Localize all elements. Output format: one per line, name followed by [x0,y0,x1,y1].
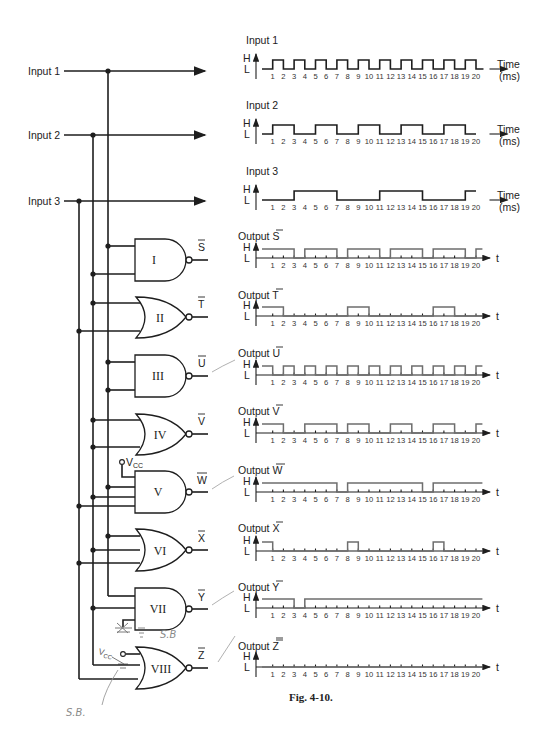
svg-text:5: 5 [313,137,317,146]
svg-text:18: 18 [450,319,458,328]
svg-text:16: 16 [429,72,437,81]
low-label: L [244,310,250,322]
svg-text:12: 12 [386,611,394,620]
svg-text:3: 3 [292,203,296,212]
input-1-label: Input 1 [28,65,60,77]
chart-output-V: Output VHL123456789101112131415161718192… [238,405,499,445]
svg-text:5: 5 [313,261,317,270]
svg-text:9: 9 [356,378,360,387]
svg-text:19: 19 [461,378,469,387]
svg-text:6: 6 [324,137,328,146]
svg-text:9: 9 [356,670,360,679]
svg-text:5: 5 [313,378,317,387]
svg-text:10: 10 [365,203,373,212]
svg-text:6: 6 [324,319,328,328]
svg-text:7: 7 [335,378,339,387]
svg-text:10: 10 [365,319,373,328]
svg-text:16: 16 [429,137,437,146]
svg-text:2: 2 [281,261,285,270]
svg-text:13: 13 [397,554,405,563]
low-label: L [244,63,250,75]
svg-text:6: 6 [324,495,328,504]
svg-text:11: 11 [376,261,384,270]
svg-text:12: 12 [386,72,394,81]
svg-text:11: 11 [376,203,384,212]
chart-title: Input 3 [246,165,278,177]
svg-text:10: 10 [365,72,373,81]
svg-text:12: 12 [386,137,394,146]
svg-text:19: 19 [461,72,469,81]
svg-text:17: 17 [440,436,448,445]
output-V-label: V [198,415,205,427]
pencil-leader-lines [212,360,235,662]
svg-text:5: 5 [313,72,317,81]
gate-III-label: III [152,369,164,383]
output-X-label: X [198,532,205,544]
input-2-label: Input 2 [28,129,60,141]
gate-VII-label: VII [150,602,167,616]
svg-text:11: 11 [376,436,384,445]
timing-charts: Input 1HL1234567891011121314151617181920… [238,34,520,679]
svg-text:7: 7 [335,436,339,445]
svg-text:6: 6 [324,203,328,212]
svg-text:8: 8 [345,378,349,387]
svg-text:4: 4 [303,670,307,679]
svg-text:7: 7 [335,261,339,270]
svg-text:8: 8 [345,495,349,504]
svg-text:19: 19 [461,137,469,146]
output-T-label: T [198,298,205,310]
svg-text:1: 1 [271,670,275,679]
svg-text:11: 11 [376,137,384,146]
svg-text:17: 17 [440,670,448,679]
svg-text:7: 7 [335,203,339,212]
svg-text:5: 5 [313,670,317,679]
svg-text:t: t [496,486,499,498]
svg-text:12: 12 [386,203,394,212]
svg-text:9: 9 [356,554,360,563]
svg-text:13: 13 [397,378,405,387]
svg-text:10: 10 [365,378,373,387]
svg-text:4: 4 [303,436,307,445]
svg-text:3: 3 [292,436,296,445]
svg-text:3: 3 [292,670,296,679]
svg-text:8: 8 [345,611,349,620]
svg-text:7: 7 [335,670,339,679]
gate-II-label: II [156,311,164,325]
svg-text:13: 13 [397,495,405,504]
svg-text:13: 13 [397,436,405,445]
svg-text:7: 7 [335,495,339,504]
svg-text:3: 3 [292,261,296,270]
svg-text:19: 19 [461,261,469,270]
svg-text:11: 11 [376,319,384,328]
handwritten-note-1: S.B [160,629,177,640]
svg-text:17: 17 [440,611,448,620]
svg-text:17: 17 [440,554,448,563]
svg-text:11: 11 [376,495,384,504]
svg-text:12: 12 [386,495,394,504]
svg-text:2: 2 [281,319,285,328]
svg-text:16: 16 [429,378,437,387]
svg-text:9: 9 [356,611,360,620]
logic-circuit-figure: Input 1 Input 2 Input 3 I S II T [0,0,557,741]
svg-text:8: 8 [345,203,349,212]
svg-text:15: 15 [418,261,426,270]
svg-text:16: 16 [429,495,437,504]
svg-text:13: 13 [397,72,405,81]
svg-text:16: 16 [429,554,437,563]
svg-text:11: 11 [376,378,384,387]
svg-text:8: 8 [345,436,349,445]
gate-I-label: I [152,253,156,267]
svg-text:8: 8 [345,137,349,146]
svg-text:5: 5 [313,554,317,563]
output-U-label: U [198,357,206,369]
svg-text:t: t [496,252,499,264]
svg-text:5: 5 [313,203,317,212]
low-label: L [244,545,250,557]
gate-IV-label: IV [154,428,167,442]
svg-text:1: 1 [271,72,275,81]
chart-output-X: Output XHL123456789101112131415161718192… [238,522,499,563]
svg-text:6: 6 [324,436,328,445]
svg-text:14: 14 [408,203,416,212]
svg-text:16: 16 [429,670,437,679]
svg-text:3: 3 [292,319,296,328]
